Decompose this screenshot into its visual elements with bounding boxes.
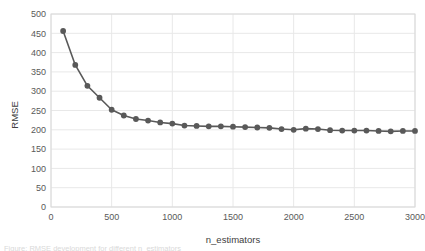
y-tick-label: 400 — [31, 48, 46, 58]
data-point-marker — [351, 128, 357, 134]
data-point-marker — [412, 128, 418, 134]
y-tick-label: 0 — [41, 202, 46, 212]
data-point-marker — [327, 127, 333, 133]
data-point-marker — [364, 128, 370, 134]
data-point-marker — [242, 124, 248, 130]
data-point-marker — [291, 127, 297, 133]
data-point-marker — [206, 123, 212, 129]
y-tick-label: 50 — [36, 183, 46, 193]
data-point-marker — [303, 126, 309, 132]
data-point-marker — [121, 113, 127, 119]
y-tick-label: 350 — [31, 67, 46, 77]
data-point-marker — [194, 123, 200, 129]
y-tick-label: 150 — [31, 144, 46, 154]
data-point-marker — [218, 123, 224, 129]
data-point-marker — [72, 62, 78, 68]
x-tick-label: 500 — [104, 212, 119, 222]
data-point-marker — [109, 107, 115, 113]
chart-figure: 050100150200250300350400450500 050010001… — [0, 0, 425, 251]
y-tick-label: 200 — [31, 125, 46, 135]
data-point-marker — [254, 125, 260, 131]
x-tick-label: 2000 — [284, 212, 304, 222]
data-point-marker — [279, 126, 285, 132]
data-point-marker — [376, 128, 382, 134]
data-point-marker — [60, 28, 66, 34]
data-point-marker — [157, 120, 163, 126]
data-point-marker — [182, 123, 188, 129]
y-tick-label: 250 — [31, 106, 46, 116]
y-tick-label: 300 — [31, 86, 46, 96]
x-tick-label: 2500 — [344, 212, 364, 222]
data-point-marker — [85, 83, 91, 89]
data-point-marker — [315, 126, 321, 132]
data-point-marker — [97, 95, 103, 101]
rmse-vs-n-estimators-chart: 050100150200250300350400450500 050010001… — [0, 0, 425, 251]
data-point-marker — [339, 128, 345, 134]
data-point-marker — [388, 128, 394, 134]
y-tick-label: 450 — [31, 29, 46, 39]
data-point-marker — [133, 116, 139, 122]
x-tick-label: 0 — [48, 212, 53, 222]
y-tick-label: 500 — [31, 9, 46, 19]
y-axis-title: RMSE — [9, 101, 20, 128]
x-tick-label: 3000 — [405, 212, 425, 222]
data-point-marker — [400, 128, 406, 134]
data-point-marker — [169, 121, 175, 127]
data-point-marker — [230, 124, 236, 130]
figure-caption: Figure: RMSE development for different n… — [4, 243, 304, 251]
x-tick-label: 1000 — [162, 212, 182, 222]
data-point-marker — [145, 118, 151, 124]
x-tick-label: 1500 — [223, 212, 243, 222]
y-tick-label: 100 — [31, 164, 46, 174]
data-point-marker — [267, 125, 273, 131]
